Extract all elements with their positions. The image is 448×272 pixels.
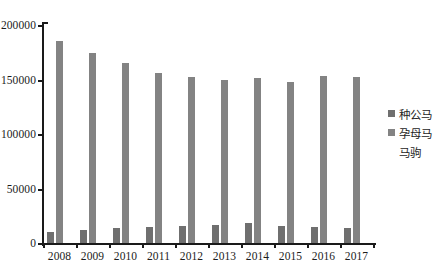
bar-group	[80, 25, 106, 243]
x-axis-tick	[76, 243, 78, 248]
legend-item-label: 孕母马	[399, 125, 432, 141]
x-axis-label: 2010	[114, 250, 137, 262]
bar-孕母马-2008	[56, 41, 64, 243]
bar-group	[47, 25, 73, 243]
x-axis-label: 2016	[312, 250, 335, 262]
x-axis-label: 2017	[345, 250, 368, 262]
bar-种公马-2016	[311, 227, 319, 243]
bar-种公马-2011	[146, 227, 154, 243]
bar-孕母马-2012	[188, 77, 196, 243]
bar-种公马-2010	[113, 228, 121, 243]
bar-孕母马-2015	[287, 82, 295, 243]
x-axis-tick	[241, 243, 243, 248]
x-axis-tick	[307, 243, 309, 248]
x-axis-label: 2013	[213, 250, 236, 262]
bar-孕母马-2017	[353, 77, 361, 243]
x-axis-label: 2009	[81, 250, 104, 262]
x-axis-label: 2011	[147, 250, 170, 262]
x-axis-tick	[274, 243, 276, 248]
y-axis-tick-label: 150000	[1, 74, 36, 86]
bar-group	[311, 25, 337, 243]
bar-种公马-2009	[80, 230, 88, 243]
bar-孕母马-2011	[155, 73, 163, 243]
x-axis-tick	[208, 243, 210, 248]
bar-group	[278, 25, 304, 243]
legend-swatch-foal-icon	[388, 148, 395, 155]
bar-种公马-2012	[179, 226, 187, 243]
legend-item[interactable]: 马驹	[388, 142, 448, 161]
legend-item[interactable]: 孕母马	[388, 123, 448, 142]
bar-group	[113, 25, 139, 243]
bar-group	[245, 25, 271, 243]
x-axis-label: 2014	[246, 250, 269, 262]
legend-swatch-pregnant-mare-icon	[388, 129, 395, 136]
bar-孕母马-2016	[320, 76, 328, 243]
bar-孕母马-2014	[254, 78, 262, 243]
x-axis-label: 2008	[48, 250, 71, 262]
plot-area: 050000100000150000200000	[43, 25, 373, 243]
y-axis-tick-label: 200000	[1, 19, 36, 31]
legend-item-label: 马驹	[399, 144, 421, 160]
bar-孕母马-2013	[221, 80, 229, 244]
bar-group	[344, 25, 370, 243]
bar-孕母马-2009	[89, 53, 97, 243]
y-axis-tick-label: 50000	[7, 183, 36, 195]
y-axis-tick-label: 0	[30, 237, 36, 249]
y-axis-tick	[38, 25, 44, 27]
legend-item-label: 种公马	[399, 106, 432, 122]
x-axis-label: 2012	[180, 250, 203, 262]
chart-legend: 种公马孕母马马驹	[388, 104, 448, 161]
x-axis-label: 2015	[279, 250, 302, 262]
y-axis-top-cap	[42, 22, 48, 24]
y-axis-tick-label: 100000	[1, 128, 36, 140]
bar-种公马-2017	[344, 228, 352, 243]
x-axis-tick	[175, 243, 177, 248]
bar-孕母马-2010	[122, 63, 130, 243]
x-axis-tick	[43, 243, 45, 248]
y-axis-tick	[38, 80, 44, 82]
legend-swatch-stud-stallion-icon	[388, 110, 395, 117]
x-axis-tick	[340, 243, 342, 248]
x-axis-tick	[373, 243, 375, 248]
x-axis-tick	[142, 243, 144, 248]
bar-种公马-2013	[212, 225, 220, 243]
bar-种公马-2008	[47, 232, 55, 243]
bar-种公马-2015	[278, 226, 286, 243]
x-axis-tick	[109, 243, 111, 248]
bar-chart: 050000100000150000200000 种公马孕母马马驹 200820…	[0, 0, 448, 272]
bar-种公马-2014	[245, 223, 253, 243]
legend-item[interactable]: 种公马	[388, 104, 448, 123]
bar-group	[212, 25, 238, 243]
bar-group	[146, 25, 172, 243]
y-axis-tick	[38, 189, 44, 191]
bar-group	[179, 25, 205, 243]
y-axis-tick	[38, 134, 44, 136]
